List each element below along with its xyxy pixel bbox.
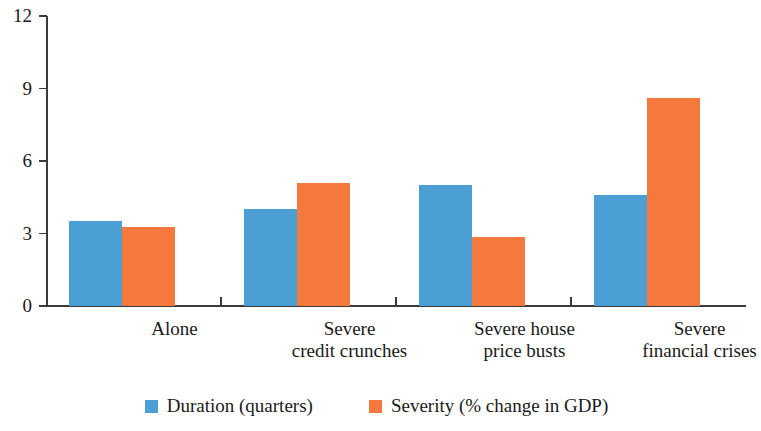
y-axis-tick-label: 12	[2, 6, 32, 25]
bar-severity	[122, 227, 175, 306]
bar-severity	[472, 237, 525, 306]
chart-legend: Duration (quarters)Severity (% change in…	[0, 396, 753, 415]
category-label-line: credit crunches	[250, 340, 450, 362]
y-axis-tick-label: 9	[2, 79, 32, 98]
category-label-line: Severe house	[425, 318, 625, 340]
bar-severity	[647, 98, 700, 306]
legend-swatch-icon	[369, 400, 382, 413]
bar-duration	[419, 185, 472, 306]
y-axis-tick-label: 0	[2, 296, 32, 315]
x-axis-category-label: Alone	[75, 318, 275, 340]
legend-swatch-icon	[145, 400, 158, 413]
bar-severity	[297, 183, 350, 306]
bar-duration	[594, 195, 647, 306]
legend-label: Duration (quarters)	[167, 396, 313, 415]
x-axis-category-label: Severecredit crunches	[250, 318, 450, 362]
x-axis-category-label: Severe houseprice busts	[425, 318, 625, 362]
category-label-line: Severe	[250, 318, 450, 340]
y-axis-tick-label: 3	[2, 224, 32, 243]
category-label-line: financial crises	[600, 340, 761, 362]
x-axis-category-label: Severefinancial crises	[600, 318, 761, 362]
legend-label: Severity (% change in GDP)	[391, 396, 608, 415]
bar-duration	[244, 209, 297, 306]
category-label-line: Severe	[600, 318, 761, 340]
category-label-line: price busts	[425, 340, 625, 362]
y-axis-tick-label: 6	[2, 151, 32, 170]
bar-duration	[69, 221, 122, 306]
legend-item-severity: Severity (% change in GDP)	[369, 396, 608, 415]
plot-area	[46, 16, 746, 306]
legend-item-duration: Duration (quarters)	[145, 396, 313, 415]
category-label-line: Alone	[75, 318, 275, 340]
